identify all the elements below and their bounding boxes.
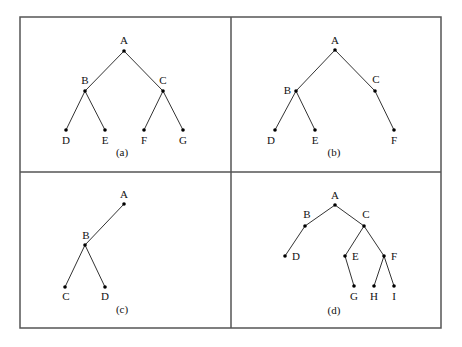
- panel-caption: (b): [328, 146, 341, 159]
- edge-a-c: [335, 50, 375, 91]
- node-a-dot: [122, 202, 126, 206]
- node-d-label: D: [101, 290, 109, 302]
- edges: [65, 204, 124, 287]
- panel-a-tree: ABCDEFG (a): [62, 34, 187, 159]
- node-c-label: C: [362, 208, 369, 220]
- node-f-dot: [392, 128, 396, 132]
- node-a-label: A: [331, 34, 339, 46]
- nodes: ABCD: [62, 188, 128, 302]
- node-c-dot: [161, 89, 165, 93]
- edge-b-d: [85, 245, 105, 287]
- node-d-label: D: [292, 250, 300, 262]
- node-d-dot: [283, 254, 287, 258]
- node-b-dot: [294, 89, 298, 93]
- nodes: ABCDEFGHI: [283, 189, 397, 302]
- node-c-dot: [63, 285, 67, 289]
- node-a-label: A: [120, 34, 128, 46]
- node-c-dot: [362, 224, 366, 228]
- node-a-label: A: [120, 188, 128, 200]
- node-e-label: E: [352, 250, 359, 262]
- panel-caption: (c): [116, 303, 129, 316]
- node-a-dot: [333, 203, 337, 207]
- node-e-dot: [313, 128, 317, 132]
- node-i-label: I: [392, 290, 396, 302]
- edge-a-c: [124, 51, 163, 91]
- node-d-label: D: [267, 134, 275, 146]
- node-f-label: F: [391, 250, 397, 262]
- node-f-dot: [142, 128, 146, 132]
- edge-a-b: [85, 51, 124, 91]
- node-c-dot: [373, 89, 377, 93]
- node-b-dot: [83, 243, 87, 247]
- node-d-dot: [103, 285, 107, 289]
- node-f-dot: [382, 254, 386, 258]
- node-e-dot: [103, 128, 107, 132]
- edge-a-c: [335, 205, 364, 226]
- node-g-dot: [352, 284, 356, 288]
- nodes: ABCDEFG: [62, 34, 187, 146]
- edge-a-b: [85, 204, 124, 245]
- node-a-label: A: [331, 189, 339, 201]
- edge-c-f: [375, 91, 394, 130]
- node-b-dot: [83, 89, 87, 93]
- panel-d-tree: ABCDEFGHI (d): [283, 189, 397, 317]
- node-a-dot: [122, 49, 126, 53]
- edge-b-e: [296, 91, 315, 130]
- edge-f-h: [374, 256, 384, 286]
- edge-b-d: [275, 91, 296, 130]
- node-i-dot: [392, 284, 396, 288]
- edge-b-c: [65, 245, 85, 287]
- edge-c-g: [163, 91, 183, 130]
- edge-a-b: [296, 50, 335, 91]
- panel-caption: (a): [116, 146, 129, 159]
- node-b-label: B: [303, 208, 310, 220]
- node-b-dot: [303, 224, 307, 228]
- panel-c-tree: ABCD (c): [62, 188, 128, 316]
- node-g-label: G: [179, 134, 187, 146]
- panel-caption: (d): [328, 304, 341, 317]
- tree-diagram-figure: ABCDEFG (a) ABCDEF (b) ABCD (c) ABCDEFGH…: [0, 0, 462, 347]
- node-f-label: F: [391, 134, 397, 146]
- node-e-label: E: [102, 134, 109, 146]
- node-e-label: E: [312, 134, 319, 146]
- node-e-dot: [343, 254, 347, 258]
- panel-frame: [20, 17, 441, 328]
- node-h-label: H: [370, 290, 378, 302]
- node-d-label: D: [62, 134, 70, 146]
- nodes: ABCDEF: [267, 34, 397, 146]
- node-g-dot: [181, 128, 185, 132]
- node-a-dot: [333, 48, 337, 52]
- node-c-label: C: [159, 74, 166, 86]
- node-h-dot: [372, 284, 376, 288]
- node-b-label: B: [81, 74, 88, 86]
- node-d-dot: [64, 128, 68, 132]
- node-b-label: B: [82, 229, 89, 241]
- panel-b-tree: ABCDEF (b): [267, 34, 397, 159]
- edge-c-f: [364, 226, 384, 256]
- edge-b-d: [66, 91, 85, 130]
- edge-b-e: [85, 91, 105, 130]
- node-b-label: B: [284, 84, 291, 96]
- node-c-label: C: [372, 73, 379, 85]
- node-c-label: C: [62, 290, 69, 302]
- node-d-dot: [273, 128, 277, 132]
- edges: [285, 205, 394, 286]
- edge-c-f: [144, 91, 163, 130]
- node-f-label: F: [141, 134, 147, 146]
- node-g-label: G: [350, 290, 358, 302]
